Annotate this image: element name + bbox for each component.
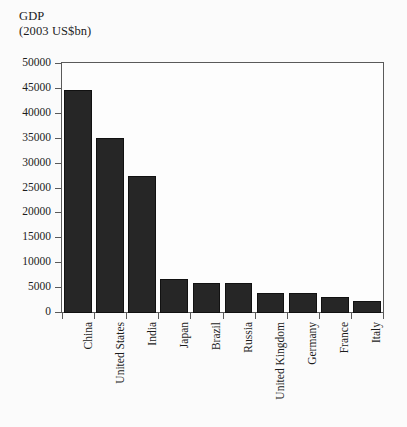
bar-series [62, 63, 383, 313]
x-axis-tick-label-text: India [147, 322, 159, 346]
bar [289, 293, 317, 313]
x-axis-tick-label-text: Russia [243, 322, 255, 353]
y-axis-tick [55, 188, 61, 189]
bar-slot [351, 63, 383, 313]
bar-slot [319, 63, 351, 313]
y-axis-tick-label: 40000 [0, 107, 51, 119]
bar [353, 301, 381, 313]
x-axis-tick [190, 313, 191, 319]
x-axis-tick-label-text: United States [115, 322, 127, 384]
x-axis-tick-label-text: Italy [371, 322, 383, 343]
x-axis-tick-label-text: China [83, 322, 95, 349]
y-axis-tick-label: 5000 [0, 281, 51, 293]
y-axis-tick [55, 88, 61, 89]
chart-title-block: GDP (2003 US$bn) [19, 9, 91, 39]
x-axis-tick [255, 313, 256, 319]
x-axis-tick [383, 313, 384, 319]
y-axis-tick [55, 138, 61, 139]
y-axis-tick-label: 25000 [0, 182, 51, 194]
bar-slot [94, 63, 126, 313]
y-axis-tick-label: 50000 [0, 57, 51, 69]
x-axis-tick [62, 313, 63, 319]
bar-slot [223, 63, 255, 313]
x-axis-tick-label-text: Brazil [211, 322, 223, 350]
y-axis-tick-label: 30000 [0, 157, 51, 169]
y-axis-tick-label: 10000 [0, 256, 51, 268]
bar [128, 176, 156, 313]
y-axis-tick [55, 63, 61, 64]
y-axis-tick [55, 163, 61, 164]
x-axis-tick-label-text: Japan [179, 322, 191, 348]
y-axis-tick-label: 20000 [0, 206, 51, 218]
chart-figure: GDP (2003 US$bn) 05000100001500020000250… [0, 0, 407, 427]
bar-slot [255, 63, 287, 313]
bar-slot [190, 63, 222, 313]
x-axis-tick [287, 313, 288, 319]
bar-slot [62, 63, 94, 313]
bar [96, 138, 124, 313]
x-axis-tick [319, 313, 320, 319]
page-title: GDP [19, 9, 91, 24]
y-axis-tick [55, 212, 61, 213]
bar-slot [126, 63, 158, 313]
y-axis-tick [55, 287, 61, 288]
bar [321, 297, 349, 313]
x-axis-tick-label-text: United Kingdom [275, 322, 287, 400]
y-axis-tick-label: 0 [0, 306, 51, 318]
bar [160, 279, 188, 313]
x-axis-tick [223, 313, 224, 319]
bar-slot [287, 63, 319, 313]
x-axis-tick [351, 313, 352, 319]
y-axis-tick [55, 312, 61, 313]
bar [225, 283, 253, 313]
x-axis-tick-label-text: France [339, 322, 351, 353]
y-axis-tick [55, 262, 61, 263]
bar [64, 90, 92, 313]
y-axis-tick-label: 15000 [0, 231, 51, 243]
y-axis-tick [55, 113, 61, 114]
bar [193, 283, 221, 313]
bar-slot [158, 63, 190, 313]
y-axis-tick [55, 237, 61, 238]
bar [257, 293, 285, 313]
y-axis-tick-label: 35000 [0, 132, 51, 144]
y-axis-tick-label: 45000 [0, 82, 51, 94]
x-axis-tick-label-text: Germany [307, 322, 319, 365]
chart-subtitle: (2003 US$bn) [19, 24, 91, 39]
